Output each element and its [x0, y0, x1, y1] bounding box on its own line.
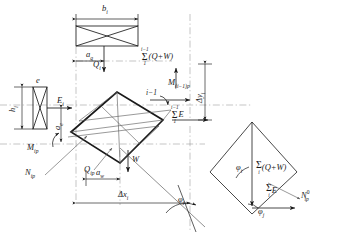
label-phi-i-right: φi: [236, 163, 242, 174]
label-dxi: Δxi: [118, 190, 128, 201]
Mip-moment-arc: [53, 133, 59, 147]
label-Qip: Qip: [84, 165, 95, 176]
label-phi-j-right: φj: [258, 207, 264, 218]
sigma-symbol-E-left: i−1 Σ 1: [171, 105, 179, 124]
label-Qi: Qi: [93, 60, 101, 71]
phi-ref-line: [178, 185, 196, 232]
label-Ei: Ei: [57, 96, 64, 107]
label-sum-E-right: Σ i E: [266, 183, 277, 197]
label-dyi: Δyi: [195, 93, 206, 103]
label-Nip: Nip: [25, 168, 35, 179]
left-block: [33, 87, 47, 129]
figure-canvas: bi aq Qi e hi Ei ae Mip Nip Qip W aw Δxi…: [0, 0, 351, 237]
polygon-phi-j-arc: [248, 204, 258, 208]
bi-dimension: [76, 14, 138, 26]
label-sum-QW-right: Σ i (Q+W): [256, 160, 286, 174]
Mi1p-moment-arc: [160, 96, 168, 105]
label-ae: ae: [53, 123, 64, 130]
label-Mi1p: M(i−1)p: [168, 78, 190, 89]
label-phi-i-left: φi: [178, 195, 184, 206]
label-sum-E-left: i−1 Σ 1 E: [171, 105, 184, 124]
sigma-symbol-QW-left: i−1 Σ 1: [141, 47, 149, 66]
label-hi: hi: [8, 106, 19, 112]
top-block: [76, 26, 138, 46]
label-e: e: [36, 76, 40, 85]
Nip-force-arrow: [45, 136, 87, 175]
label-Mip: Mip: [27, 143, 38, 154]
label-aq: aq: [86, 50, 93, 61]
label-sum-QW-left: i−1 Σ 1 (Q+W): [141, 47, 173, 66]
tilted-slice-block: [71, 92, 163, 163]
label-bi: bi: [102, 4, 108, 15]
label-N0ip-right: N0ip: [301, 190, 309, 202]
label-W: W: [132, 155, 139, 164]
label-node-i-minus-1: i−1: [146, 89, 157, 97]
label-aw: aw: [96, 168, 104, 179]
